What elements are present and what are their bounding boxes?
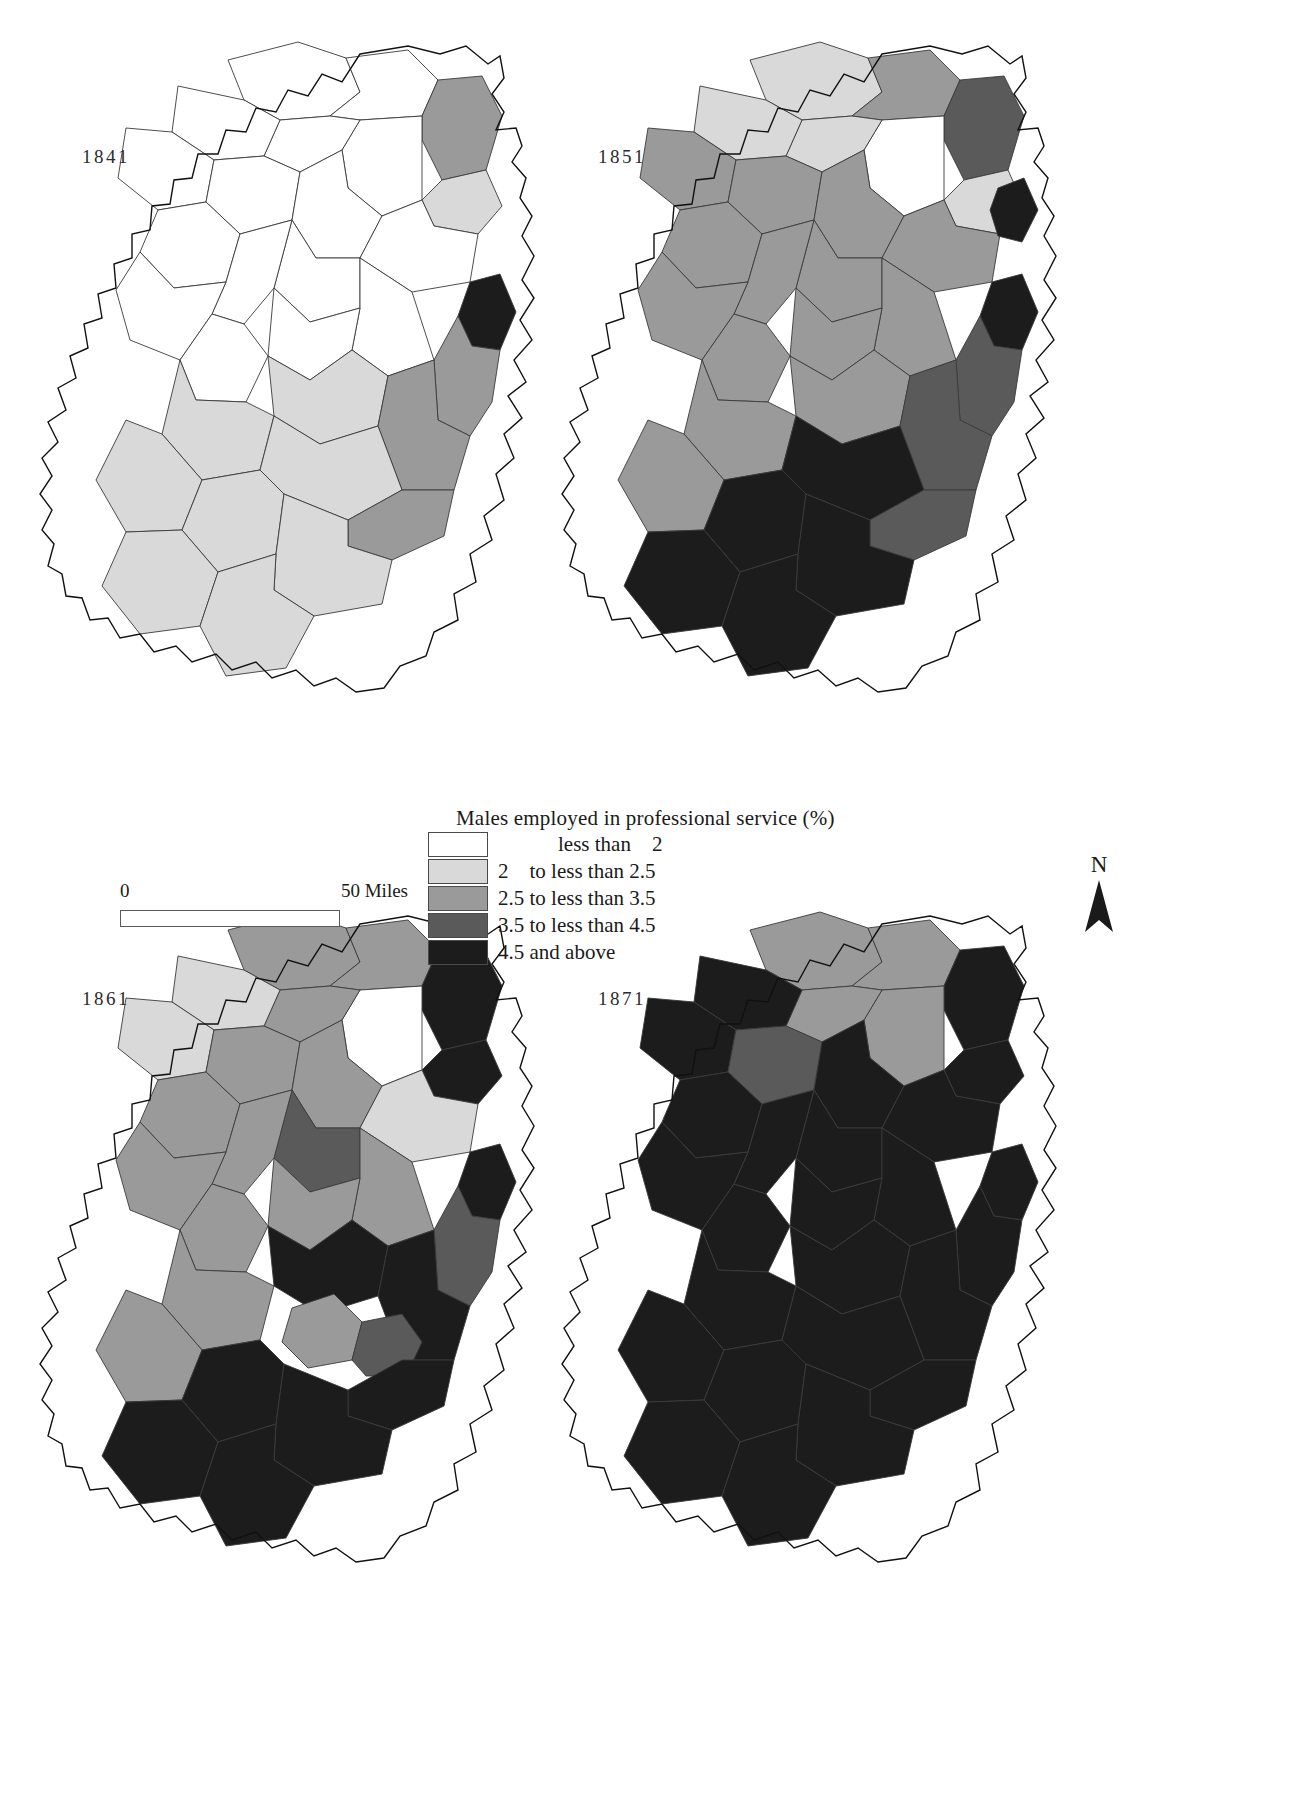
north-letter: N [1064, 853, 1134, 876]
legend-label-3-5-to-4-5: 3.5 to less than 4.5 [498, 913, 656, 938]
year-label-1851: 1851 [598, 146, 646, 168]
scale-label-max: 50 Miles [341, 880, 408, 902]
legend-title: Males employed in professional service (… [456, 806, 898, 831]
scale-bar-rectangle [120, 910, 340, 927]
counties-1851 [618, 42, 1038, 676]
counties-1861 [96, 912, 516, 1546]
year-label-1871: 1871 [598, 988, 646, 1010]
counties-1841 [96, 42, 516, 676]
legend-row: 2 to less than 2.5 [428, 858, 898, 885]
legend-row: 3.5 to less than 4.5 [428, 912, 898, 939]
legend-row: 4.5 and above [428, 939, 898, 966]
legend-swatch-lt-2 [428, 832, 488, 857]
year-label-1841: 1841 [82, 146, 130, 168]
year-label-1861: 1861 [82, 988, 130, 1010]
legend-swatch-4-5-and-above [428, 940, 488, 965]
legend-label-4-5-and-above: 4.5 and above [498, 940, 615, 965]
north-arrow: N [1064, 853, 1134, 932]
map-panel-1861[interactable]: 1861 [30, 880, 570, 1580]
ireland-map-1871[interactable] [552, 880, 1092, 1580]
scale-bar: 0 50 Miles [120, 880, 350, 927]
scale-bar-labels: 0 50 Miles [120, 880, 350, 906]
ireland-map-1841[interactable] [30, 20, 570, 700]
scale-label-zero: 0 [120, 880, 130, 902]
legend-row: less than 2 [428, 831, 898, 858]
map-panel-1871[interactable]: 1871 [552, 880, 1092, 1580]
legend-swatch-2-5-to-3-5 [428, 886, 488, 911]
map-panel-1851[interactable]: 1851 [552, 20, 1092, 700]
north-arrow-icon [1082, 880, 1116, 932]
ireland-map-1861[interactable] [30, 880, 570, 1580]
legend-label-2-5-to-3-5: 2.5 to less than 3.5 [498, 886, 656, 911]
ireland-map-1851[interactable] [552, 20, 1092, 700]
map-panel-1841[interactable]: 1841 [30, 20, 570, 700]
legend-label-lt-2: less than 2 [558, 832, 662, 857]
legend-label-2-to-2-5: 2 to less than 2.5 [498, 859, 656, 884]
counties-1871 [618, 912, 1038, 1546]
legend-row: 2.5 to less than 3.5 [428, 885, 898, 912]
legend-swatch-2-to-2-5 [428, 859, 488, 884]
legend-swatch-3-5-to-4-5 [428, 913, 488, 938]
map-legend: Males employed in professional service (… [428, 806, 898, 966]
